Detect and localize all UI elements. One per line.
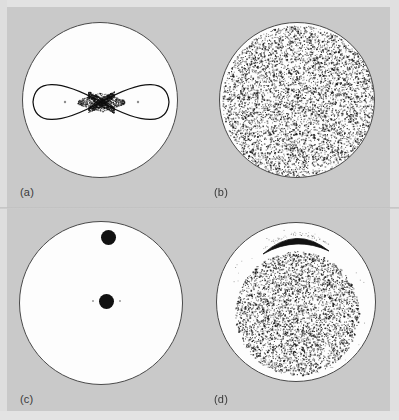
panel-a-boundary-circle (22, 22, 178, 178)
panel-d-boundary-circle (216, 222, 376, 382)
panel-label-c: (c) (20, 393, 33, 405)
panel-label-b: (b) (214, 186, 228, 198)
island-blob-2 (99, 294, 114, 309)
island-blob-1 (101, 230, 116, 245)
page-edge-top (0, 0, 399, 7)
panel-b-boundary-circle (219, 22, 375, 178)
panel-label-d: (d) (214, 393, 228, 405)
page-edge-bottom (0, 411, 399, 420)
satellite-dot-1 (92, 300, 95, 303)
chaotic-scatter-b (220, 23, 375, 178)
separatrix-figure-eight (23, 23, 178, 178)
crescent-island-d (217, 223, 376, 382)
page-edge-left (0, 0, 7, 420)
poincare-section-figure: (a) (b) (c) (d) (0, 0, 399, 420)
scan-row-seam (0, 207, 399, 209)
panel-c-boundary-circle (19, 221, 183, 385)
panel-label-a: (a) (20, 186, 34, 198)
page-edge-right (390, 0, 399, 420)
satellite-dot-2 (119, 300, 122, 303)
